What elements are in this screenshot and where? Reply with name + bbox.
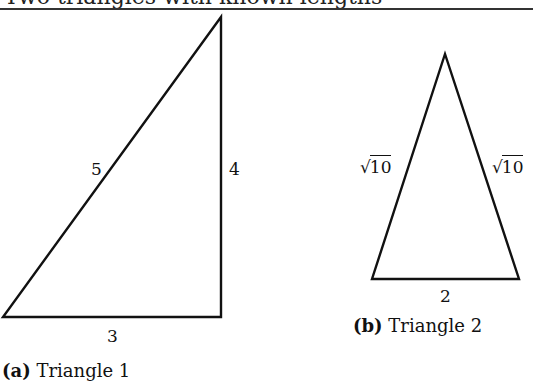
caption-triangle-2: (b) Triangle 2: [353, 316, 482, 336]
triangle-2-right-label: √10: [492, 158, 523, 176]
radicand: 10: [370, 155, 392, 177]
radicand: 10: [502, 155, 524, 177]
triangle-1-shape: [3, 17, 221, 317]
caption-text: Triangle 2: [388, 315, 482, 336]
sqrt-expression: √10: [492, 158, 523, 176]
caption-text: Triangle 1: [36, 360, 130, 381]
triangle-1-base-label: 3: [107, 327, 118, 345]
caption-tag: (a): [2, 360, 31, 381]
sqrt-expression: √10: [360, 158, 391, 176]
triangle-1-hypotenuse-label: 5: [91, 160, 102, 178]
triangle-2-base-label: 2: [440, 287, 451, 305]
caption-triangle-1: (a) Triangle 1: [2, 361, 130, 381]
caption-tag: (b): [353, 315, 383, 336]
triangle-2-left-label: √10: [360, 158, 391, 176]
triangle-1-vertical-label: 4: [229, 160, 240, 178]
